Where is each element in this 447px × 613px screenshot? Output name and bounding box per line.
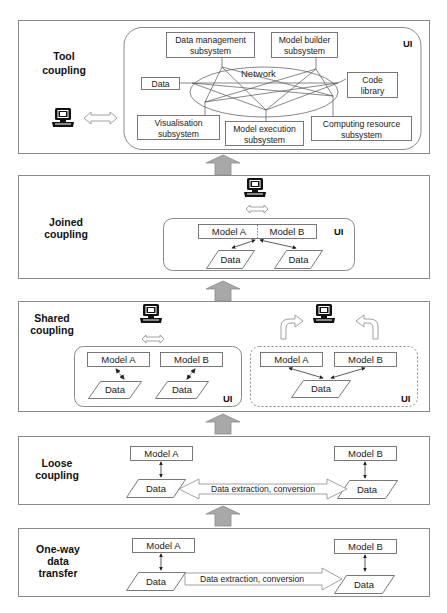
joined-model-b-label: Model B [270,226,305,237]
svg-text:Model A: Model A [144,448,179,459]
shared-left-model-a: Model A [88,353,150,367]
svg-text:Model builder: Model builder [279,35,331,45]
one-way-model-b: Model B [335,540,397,554]
loose-transfer-label: Data extraction, conversion [211,484,315,494]
svg-text:Data: Data [357,484,378,495]
svg-text:Visualisation: Visualisation [154,118,202,128]
svg-text:subsystem: subsystem [158,129,199,139]
tool-coupling-title-line1: Tool [53,50,74,62]
svg-text:Data: Data [220,254,241,265]
loose-coupling-title-line1: Loose [42,457,73,469]
shared-left-ui-tag: UI [223,393,233,404]
grey-up-arrow-icon [206,506,240,526]
one-way-title-line3: transfer [38,567,77,579]
computing-resource-subsystem-node: Computing resource subsystem [312,117,412,141]
visualisation-subsystem-node: Visualisation subsystem [138,116,220,140]
level-one-way-data-transfer: One-way data transfer Model A Model B Da… [19,529,430,597]
one-way-title-line1: One-way [36,543,80,555]
svg-text:Model A: Model A [146,540,181,551]
svg-text:Model A: Model A [274,354,309,365]
svg-text:Data: Data [288,254,309,265]
svg-text:Data: Data [146,576,167,587]
joined-ui-tag: UI [334,226,344,237]
joined-coupling-title-line2: coupling [44,228,88,240]
computer-icon [52,108,74,127]
shared-coupling-title-line1: Shared [34,312,70,324]
svg-text:Code: Code [362,75,383,85]
shared-right-ui-tag: UI [401,393,411,404]
computer-icon [140,304,162,323]
svg-text:subsystem: subsystem [341,130,382,140]
svg-text:Computing resource: Computing resource [323,119,401,129]
svg-text:Model B: Model B [174,354,209,365]
svg-text:Model A: Model A [101,354,136,365]
level-shared-coupling: Shared coupling UI Model A Model B Data … [19,302,430,412]
svg-text:Model B: Model B [348,448,383,459]
svg-text:Data management: Data management [175,35,246,45]
svg-text:subsystem: subsystem [244,135,285,145]
svg-text:Model execution: Model execution [233,124,296,134]
shared-right-model-b: Model B [335,353,397,367]
one-way-transfer-label: Data extraction, conversion [200,574,304,584]
one-way-title-line2: data [47,555,69,567]
svg-text:subsystem: subsystem [190,46,231,56]
model-builder-subsystem-node: Model builder subsystem [272,33,338,58]
shared-left-model-b: Model B [161,353,223,367]
one-way-model-a: Model A [133,539,195,553]
svg-text:Data: Data [146,483,167,494]
svg-text:Model B: Model B [348,354,383,365]
joined-coupling-title-line1: Joined [49,216,83,228]
svg-text:library: library [361,86,385,96]
svg-text:Data: Data [172,384,193,395]
svg-text:Model B: Model B [348,541,383,552]
grey-up-arrow-icon [206,414,240,434]
tool-coupling-title-line2: coupling [42,64,86,76]
level-loose-coupling: Loose coupling Model A Model B Data Data… [19,437,430,505]
level-tool-coupling: Tool coupling UI Network [19,21,430,154]
loose-model-b: Model B [335,447,397,461]
svg-text:Data: Data [105,384,126,395]
svg-text:Data: Data [311,383,332,394]
computer-icon [313,304,335,323]
svg-text:Data: Data [151,79,169,89]
loose-coupling-title-line2: coupling [35,469,79,481]
model-execution-subsystem-node: Model execution subsystem [226,122,304,146]
loose-model-a: Model A [131,447,193,461]
shared-right-model-a: Model A [261,353,323,367]
data-management-subsystem-node: Data management subsystem [167,33,255,58]
grey-up-arrow-icon [206,281,240,301]
shared-coupling-title-line2: coupling [30,324,74,336]
svg-text:Data: Data [354,579,375,590]
svg-text:subsystem: subsystem [284,46,325,56]
level-joined-coupling: Joined coupling UI Model A Model B Data … [19,176,430,279]
data-node: Data [142,78,180,90]
joined-model-a-label: Model A [212,226,247,237]
coupling-levels-diagram: Tool coupling UI Network [0,0,447,613]
computer-icon [244,178,266,197]
grey-up-arrow-icon [206,155,240,175]
tool-ui-tag: UI [403,38,413,49]
code-library-node: Code library [348,73,398,98]
